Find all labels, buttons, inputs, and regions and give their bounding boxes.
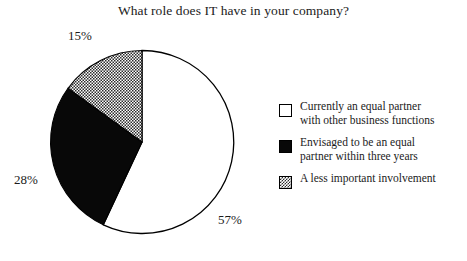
- legend-swatch-hatched-icon: [279, 176, 292, 189]
- legend-item-envisaged-equal-partner[interactable]: Envisaged to be an equal partner within …: [279, 136, 467, 163]
- pie-chart-figure: What role does IT have in your company? …: [0, 0, 467, 261]
- chart-legend: Currently an equal partner with other bu…: [279, 100, 467, 198]
- legend-item-less-important-involvement[interactable]: A less important involvement: [279, 172, 467, 189]
- legend-label-line-1: A less important involvement: [300, 172, 436, 186]
- legend-label-line-1: Envisaged to be an equal: [300, 136, 418, 150]
- legend-label-line-2: with other business functions: [300, 114, 434, 128]
- legend-label-line-1: Currently an equal partner: [300, 100, 434, 114]
- legend-label-currently-equal-partner: Currently an equal partner with other bu…: [300, 100, 434, 127]
- legend-label-line-2: partner within three years: [300, 150, 418, 164]
- legend-label-less-important-involvement: A less important involvement: [300, 172, 436, 186]
- legend-swatch-black-icon: [279, 140, 292, 153]
- legend-item-currently-equal-partner[interactable]: Currently an equal partner with other bu…: [279, 100, 467, 127]
- pie-plot-area: 15% 28% 57%: [0, 0, 290, 261]
- legend-swatch-white-icon: [279, 104, 292, 117]
- legend-label-envisaged-equal-partner: Envisaged to be an equal partner within …: [300, 136, 418, 163]
- slice-label-hatched: 15%: [68, 28, 92, 44]
- slice-label-white: 57%: [218, 212, 242, 228]
- slice-label-black: 28%: [14, 172, 38, 188]
- pie-svg: [0, 0, 290, 261]
